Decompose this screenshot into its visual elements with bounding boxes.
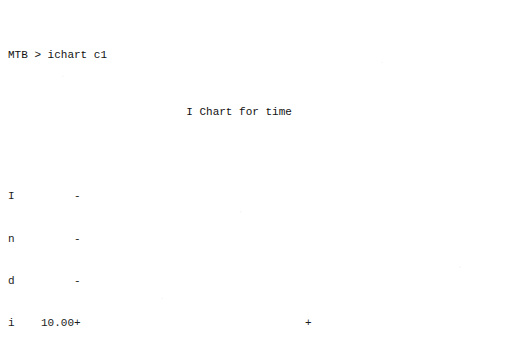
plot-body: I - n - d - i 10.00+ + v ---------------… xyxy=(8,161,470,347)
plot-row: I - xyxy=(8,189,470,203)
chart-title-line: I Chart for time xyxy=(8,105,470,119)
plot-row: d - xyxy=(8,274,470,288)
session-text-canvas: MTB > ichart c1 I Chart for time I - n -… xyxy=(8,6,470,347)
command-prompt-line[interactable]: MTB > ichart c1 xyxy=(8,48,470,62)
minitab-session-window: MTB > ichart c1 I Chart for time I - n -… xyxy=(0,0,523,347)
plot-row: n - xyxy=(8,232,470,246)
plot-row-ytick-10: i 10.00+ + xyxy=(8,316,470,330)
